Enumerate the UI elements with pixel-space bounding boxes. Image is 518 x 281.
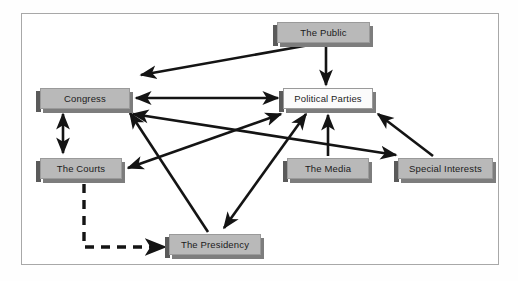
node-the-media[interactable]: The Media xyxy=(287,158,369,179)
node-the-courts[interactable]: The Courts xyxy=(40,158,122,179)
node-face: The Public xyxy=(277,22,370,43)
node-label: The Public xyxy=(300,27,346,38)
diagram-canvas: The Presidency (dashed elbow) --> The Pu… xyxy=(0,0,518,281)
edge-courts-to-presidency xyxy=(84,184,165,247)
node-face: Congress xyxy=(40,88,130,109)
node-label: Special Interests xyxy=(409,163,482,174)
edge-interests-to-parties xyxy=(378,114,433,156)
node-political-parties[interactable]: Political Parties xyxy=(283,88,373,109)
node-face: Political Parties xyxy=(283,88,373,109)
node-congress[interactable]: Congress xyxy=(40,88,130,109)
node-face: The Courts xyxy=(40,158,122,179)
node-the-public[interactable]: The Public xyxy=(277,22,370,43)
node-the-presidency[interactable]: The Presidency xyxy=(169,234,261,255)
node-label: The Courts xyxy=(57,163,106,174)
node-label: The Presidency xyxy=(181,239,249,250)
node-face: Special Interests xyxy=(398,158,493,179)
node-label: The Media xyxy=(305,163,351,174)
edge-public-to-congress xyxy=(141,44,315,75)
node-face: The Presidency xyxy=(169,234,261,255)
edge-courts-parties xyxy=(128,114,281,168)
edge-presidency-to-congress xyxy=(130,113,208,232)
node-face: The Media xyxy=(287,158,369,179)
node-label: Congress xyxy=(64,93,106,104)
node-label: Political Parties xyxy=(294,93,362,104)
node-special-interests[interactable]: Special Interests xyxy=(398,158,493,179)
